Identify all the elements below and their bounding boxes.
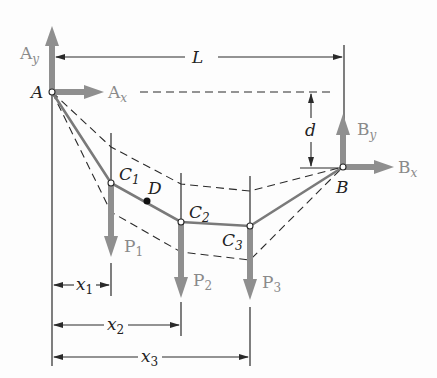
by-arrow-head [336, 114, 350, 135]
joint-a [49, 89, 55, 95]
lower-dashed-cable [52, 92, 343, 260]
label-x1: x1 [76, 274, 93, 297]
label-a: A [29, 82, 43, 102]
label-bx: Bx [398, 157, 418, 180]
label-d: D [147, 178, 162, 198]
label-l: L [191, 47, 203, 67]
label-by: By [357, 119, 377, 142]
label-x2: x2 [107, 314, 124, 337]
label-x3: x3 [141, 346, 158, 369]
joint-c3 [247, 223, 253, 229]
label-p2: P2 [193, 270, 212, 293]
ax-arrow-shaft [54, 89, 86, 95]
ax-arrow-head [84, 85, 104, 99]
joint-c2 [178, 219, 184, 225]
bx-arrow-head [374, 160, 394, 174]
p2-arrow-shaft [178, 224, 184, 278]
point-d-dot [144, 198, 151, 205]
p1-arrow-head [104, 236, 118, 257]
label-ax: Ax [107, 82, 127, 105]
label-c3: C3 [222, 230, 243, 253]
joint-c1 [108, 180, 114, 186]
label-c1: C1 [119, 164, 140, 187]
p3-arrow-head [243, 279, 257, 300]
dashed-lines [52, 92, 343, 260]
by-arrow-shaft [340, 134, 346, 167]
label-p3: P3 [262, 272, 281, 295]
cable-diagram: A B C1 C2 C3 D Ay Ax By Bx P1 P2 P3 L d … [0, 0, 437, 378]
diagram-canvas: A B C1 C2 C3 D Ay Ax By Bx P1 P2 P3 L d … [0, 0, 437, 378]
joint-b [340, 164, 346, 170]
label-b: B [335, 177, 349, 197]
label-p1: P1 [124, 236, 143, 259]
label-d-dimension: d [305, 120, 316, 140]
p2-arrow-head [174, 277, 188, 298]
label-ay: Ay [19, 43, 39, 66]
ay-arrow-head [45, 26, 59, 46]
upper-dashed-cable [52, 92, 343, 191]
ay-arrow-shaft [49, 44, 55, 92]
bx-arrow-shaft [345, 164, 375, 170]
p1-arrow-shaft [108, 185, 114, 237]
label-c2: C2 [189, 202, 210, 225]
p3-arrow-shaft [247, 228, 253, 280]
